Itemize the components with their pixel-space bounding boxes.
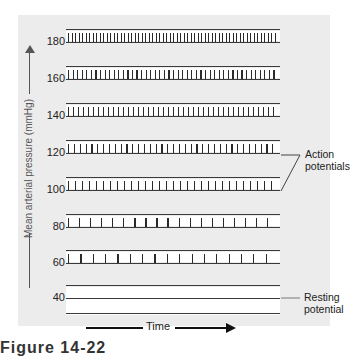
- figure-caption: Figure 14-22: [0, 339, 106, 357]
- action-potentials-label: Action potentials: [305, 148, 350, 172]
- action-label-line1: Action: [305, 148, 350, 160]
- resting-potential-label: Resting potential: [304, 291, 344, 315]
- time-arrow-line-right: [175, 327, 227, 329]
- x-axis-label: Time: [146, 320, 170, 332]
- resting-label-line2: potential: [304, 303, 344, 315]
- time-arrow-icon: [226, 323, 236, 333]
- action-label-line2: potentials: [305, 160, 350, 172]
- time-arrow-line-left: [86, 327, 143, 329]
- resting-label-line1: Resting: [304, 291, 344, 303]
